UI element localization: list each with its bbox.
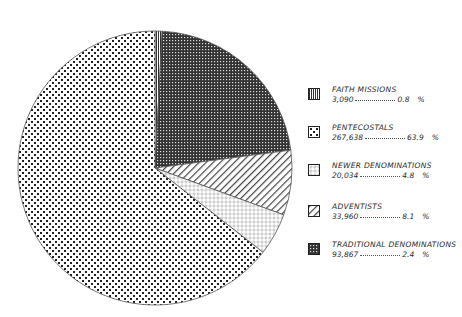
large-dots-swatch-icon — [308, 126, 320, 138]
diagonal-hatch-swatch-icon — [308, 205, 320, 217]
legend-value: 20,0344.8% — [332, 171, 429, 180]
legend-value: 3,0900.8% — [332, 95, 425, 104]
legend-item-adventists: ADVENTISTS 33,9608.1% — [308, 205, 462, 235]
vertical-lines-swatch-icon — [308, 88, 320, 100]
pie-slices — [18, 31, 292, 305]
dense-checker-swatch-icon — [308, 243, 320, 255]
legend-item-faith-missions: FAITH MISSIONS 3,0900.8% — [308, 88, 462, 118]
legend-item-pentecostals: PENTECOSTALS 267,63863.9% — [308, 126, 462, 156]
legend-value: 267,63863.9% — [332, 133, 439, 142]
legend-label: NEWER DENOMINATIONS — [332, 161, 432, 170]
small-circles-swatch-icon — [308, 164, 320, 176]
legend-label: TRADITIONAL DENOMINATIONS — [332, 240, 456, 249]
pie-slice-traditional-denominations — [155, 31, 291, 168]
legend-label: ADVENTISTS — [332, 202, 382, 211]
legend-item-newer-denominations: NEWER DENOMINATIONS 20,0344.8% — [308, 164, 462, 194]
legend-label: PENTECOSTALS — [332, 123, 394, 132]
legend-value: 33,9608.1% — [332, 212, 429, 221]
legend-label: FAITH MISSIONS — [332, 85, 396, 94]
legend: FAITH MISSIONS 3,0900.8% PENTECOSTALS 26… — [308, 0, 462, 317]
legend-value: 93,8672.4% — [332, 250, 429, 259]
legend-item-traditional-denominations: TRADITIONAL DENOMINATIONS 93,8672.4% — [308, 243, 462, 273]
